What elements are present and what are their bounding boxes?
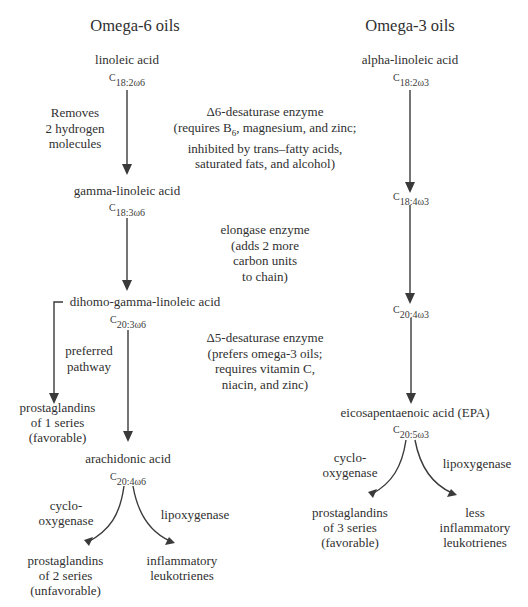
delta5-desaturase-enzyme-note: Δ5-desaturase enzyme (prefers omega-3 oi…: [190, 330, 340, 392]
gamma-linoleic-acid-label: gamma-linoleic acid: [67, 183, 187, 198]
omega3-lipoxygenase-label: lipoxygenase: [437, 456, 517, 471]
d6-line2: (requires B6, magnesium, and zinc;: [145, 120, 385, 141]
c20-4-omega3-formula: C20:4ω3: [381, 302, 441, 322]
dihomo-gamma-linoleic-acid-formula: C20:3ω6: [98, 312, 158, 332]
epa-formula: C20:5ω3: [381, 422, 441, 442]
d6-line1: Δ6-desaturase enzyme: [145, 104, 385, 120]
alpha-linoleic-acid-label: alpha-linoleic acid: [350, 52, 470, 67]
linoleic-acid-formula: C18:2ω6: [97, 70, 157, 90]
omega6-cyclooxygenase-label: cyclo- oxygenase: [36, 498, 96, 528]
epa-label: eicosapentaenoic acid (EPA): [335, 405, 495, 420]
elongase-enzyme-note: elongase enzyme (adds 2 more carbon unit…: [205, 222, 325, 284]
removes-hydrogen-note: Removes 2 hydrogen molecules: [40, 105, 110, 152]
prostaglandins-1-series: prostaglandins of 1 series (favorable): [10, 400, 105, 445]
prostaglandins-3-series: prostaglandins of 3 series (favorable): [305, 505, 395, 550]
omega6-lipoxygenase-label: lipoxygenase: [155, 507, 235, 522]
omega6-heading: Omega-6 oils: [80, 17, 190, 35]
prostaglandins-2-series: prostaglandins of 2 series (unfavorable): [23, 553, 108, 598]
arachidonic-acid-formula: C20:4ω6: [98, 469, 158, 489]
less-inflammatory-leukotrienes: less inflammatory leukotrienes: [435, 505, 515, 550]
alpha-linoleic-acid-formula: C18:2ω3: [381, 70, 441, 90]
arachidonic-acid-label: arachidonic acid: [78, 451, 178, 466]
linoleic-acid-label: linoleic acid: [77, 52, 177, 67]
gamma-linoleic-acid-formula: C18:3ω6: [97, 200, 157, 220]
d6-line3: inhibited by trans–fatty acids,: [145, 141, 385, 157]
dihomo-gamma-linoleic-acid-label: dihomo-gamma-linoleic acid: [60, 294, 230, 309]
omega3-cyclooxygenase-label: cyclo- oxygenase: [320, 450, 380, 480]
preferred-pathway-note: preferred pathway: [56, 343, 122, 374]
c18-4-omega3-formula: C18:4ω3: [381, 189, 441, 209]
d6-line4: saturated fats, and alcohol): [145, 156, 385, 172]
omega3-heading: Omega-3 oils: [350, 17, 470, 35]
delta6-desaturase-enzyme-note: Δ6-desaturase enzyme (requires B6, magne…: [145, 104, 385, 172]
inflammatory-leukotrienes: inflammatory leukotrienes: [142, 553, 222, 583]
